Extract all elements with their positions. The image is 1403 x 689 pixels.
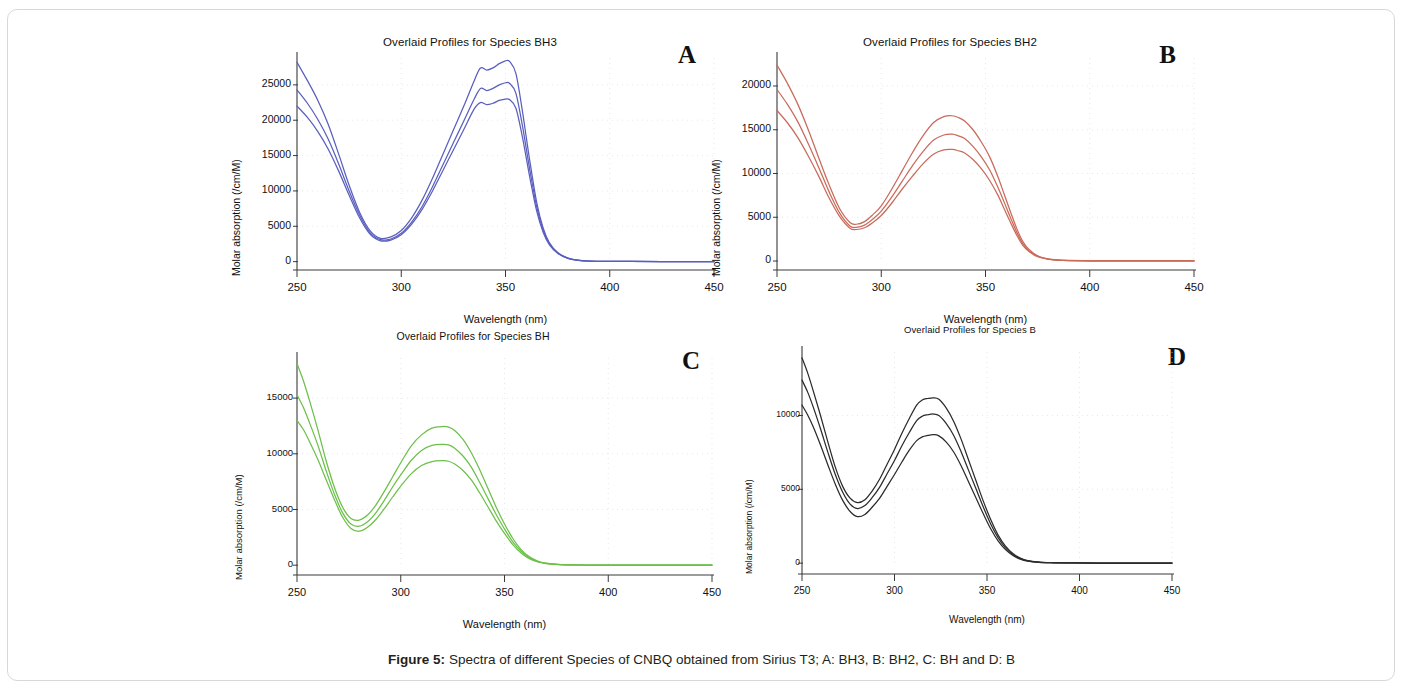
panel-d-title: Overlaid Profiles for Species B <box>740 324 1200 335</box>
y-tick-label: 0 <box>711 253 771 265</box>
panel-c-chart <box>297 358 712 573</box>
x-tick-label: 300 <box>376 281 426 293</box>
y-tick-label: 5000 <box>740 483 800 493</box>
y-tick-label: 15000 <box>711 122 771 134</box>
y-tick-label: 10000 <box>740 409 800 419</box>
x-tick-label: 350 <box>962 585 1012 596</box>
panel-d-plot-area <box>802 352 1172 572</box>
x-tick-label: 250 <box>777 585 827 596</box>
y-tick-label: 10000 <box>711 166 771 178</box>
figure-caption-label: Figure 5: <box>388 652 445 667</box>
panel-c-x-axis-label: Wavelength (nm) <box>297 618 712 630</box>
y-tick-label: 10000 <box>231 183 291 195</box>
x-tick-label: 350 <box>480 586 530 598</box>
panel-a-plot-area <box>297 58 714 268</box>
spectrum-curve <box>297 82 714 261</box>
panel-d: Overlaid Profiles for Species B D Molar … <box>740 324 1200 624</box>
spectrum-curve <box>297 395 712 565</box>
x-tick-label: 250 <box>272 586 322 598</box>
y-tick-label: 20000 <box>231 113 291 125</box>
y-tick-label: 10000 <box>233 447 293 458</box>
x-tick-label: 400 <box>585 281 635 293</box>
x-tick-label: 450 <box>1147 585 1197 596</box>
y-tick-label: 15000 <box>233 391 293 402</box>
panel-d-x-axis-label: Wavelength (nm) <box>802 614 1172 625</box>
panel-b-chart <box>777 58 1194 268</box>
x-tick-label: 300 <box>870 585 920 596</box>
y-tick-label: 5000 <box>711 210 771 222</box>
x-tick-label: 300 <box>856 281 906 293</box>
y-tick-label: 5000 <box>233 503 293 514</box>
x-tick-label: 300 <box>376 586 426 598</box>
x-tick-label: 450 <box>1169 281 1219 293</box>
spectrum-curve <box>297 60 714 261</box>
panel-c: Overlaid Profiles for Species BH C Molar… <box>228 330 718 630</box>
panel-c-plot-area <box>297 358 712 573</box>
panel-b: Overlaid Profiles for Species BH2 B Mola… <box>700 36 1200 336</box>
y-tick-label: 0 <box>231 254 291 266</box>
panel-a-chart <box>297 58 714 268</box>
x-tick-label: 250 <box>752 281 802 293</box>
panel-b-title: Overlaid Profiles for Species BH2 <box>700 36 1200 48</box>
panel-b-plot-area <box>777 58 1194 268</box>
y-tick-label: 15000 <box>231 148 291 160</box>
y-tick-label: 25000 <box>231 77 291 89</box>
figure-caption: Figure 5: Spectra of different Species o… <box>0 652 1403 667</box>
figure-container: Overlaid Profiles for Species BH3 A Mola… <box>0 0 1403 689</box>
y-tick-label: 0 <box>233 558 293 569</box>
panel-d-chart <box>802 352 1172 572</box>
panel-a-x-axis-label: Wavelength (nm) <box>297 313 714 325</box>
y-tick-label: 20000 <box>711 78 771 90</box>
y-tick-label: 5000 <box>231 219 291 231</box>
panel-a-title: Overlaid Profiles for Species BH3 <box>220 36 720 48</box>
panel-a: Overlaid Profiles for Species BH3 A Mola… <box>220 36 720 336</box>
panel-c-title: Overlaid Profiles for Species BH <box>228 330 718 342</box>
figure-caption-text: Spectra of different Species of CNBQ obt… <box>445 652 1015 667</box>
spectrum-curve <box>802 405 1172 563</box>
x-tick-label: 400 <box>1055 585 1105 596</box>
x-tick-label: 400 <box>583 586 633 598</box>
x-tick-label: 250 <box>272 281 322 293</box>
x-tick-label: 350 <box>961 281 1011 293</box>
y-tick-label: 0 <box>740 557 800 567</box>
x-tick-label: 400 <box>1065 281 1115 293</box>
x-tick-label: 450 <box>687 586 737 598</box>
x-tick-label: 350 <box>481 281 531 293</box>
